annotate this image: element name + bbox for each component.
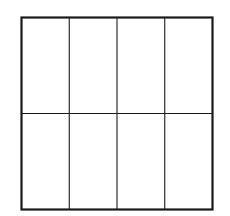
grid-diagram xyxy=(0,0,230,216)
grid-cell xyxy=(22,114,70,210)
grid-cell xyxy=(117,114,165,210)
grid-cell xyxy=(69,114,117,210)
grid-cell xyxy=(69,18,117,114)
grid-cell xyxy=(22,18,70,114)
grid-cell xyxy=(117,18,165,114)
grid-cell xyxy=(165,18,213,114)
grid-cell xyxy=(165,114,213,210)
